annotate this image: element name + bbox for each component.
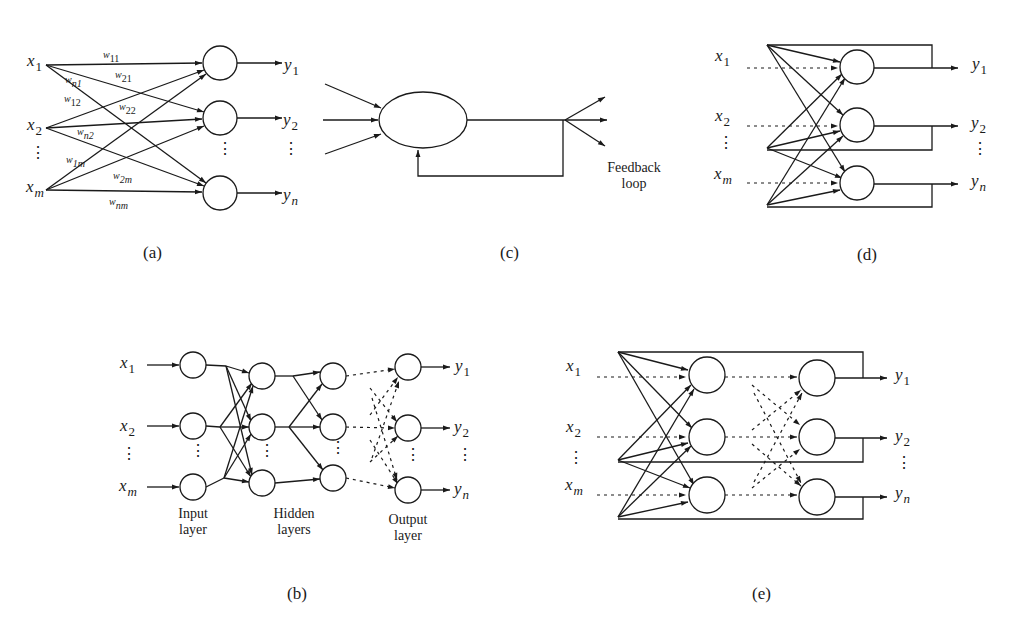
c-neuron xyxy=(379,92,467,148)
b-output-label-2: y2 xyxy=(454,418,469,439)
b-hidden2-node-2 xyxy=(320,414,346,440)
a-weight-1m: w1m xyxy=(66,155,85,169)
a-output-label-n: yn xyxy=(283,186,298,207)
a-output-label-2: y2 xyxy=(283,111,298,132)
panel-b-multilayer-feedforward xyxy=(147,352,450,503)
e-output-label-1: y1 xyxy=(895,366,910,387)
a-weight-n2: wn2 xyxy=(77,127,94,141)
a-weight-2m: w2m xyxy=(113,171,132,185)
e-input-ellipsis: ⋮ xyxy=(568,455,576,461)
caption-b: (b) xyxy=(287,585,307,602)
a-output-label-1: y1 xyxy=(284,56,299,77)
caption-a: (a) xyxy=(143,244,162,261)
a-input-label-1: x1 xyxy=(27,52,42,73)
e-output-node-1 xyxy=(799,360,835,396)
e-layer1-node-1 xyxy=(689,357,725,393)
a-input-ellipsis: ⋮ xyxy=(30,150,38,156)
caption-c: (c) xyxy=(500,244,519,261)
a-weight-12: w12 xyxy=(64,94,81,108)
b-input-label-m: xm xyxy=(119,477,137,498)
d-output-label-1: y1 xyxy=(972,55,987,76)
b-input-label-1: x1 xyxy=(120,354,135,375)
b-output-node-1 xyxy=(395,354,421,380)
e-input-label-1: x1 xyxy=(566,357,581,378)
b-input-node-1 xyxy=(180,352,206,378)
e-input-label-2: x2 xyxy=(566,418,581,439)
b-input-ellipsis: ⋮ xyxy=(121,451,129,457)
b-input-node-2 xyxy=(180,413,206,439)
caption-e: (e) xyxy=(752,585,771,602)
d-node-n xyxy=(840,166,874,200)
b-output-node-n xyxy=(395,477,421,503)
b-output-node-2 xyxy=(395,415,421,441)
network-diagrams xyxy=(0,0,1034,620)
e-output-node-n xyxy=(799,479,835,515)
b-hidden2-node-3 xyxy=(320,465,346,491)
panel-c-feedback-node xyxy=(323,84,607,176)
d-node-1 xyxy=(840,50,874,84)
d-output-label-n: yn xyxy=(971,172,986,193)
b-input-layer-ellipsis: ⋮ xyxy=(190,448,198,454)
a-output-ellipsis: ⋮ xyxy=(283,146,291,152)
d-input-label-2: x2 xyxy=(715,107,730,128)
b-input-label-2: x2 xyxy=(120,417,135,438)
b-hidden-layers-label: Hidden layers xyxy=(262,506,326,538)
d-output-ellipsis: ⋮ xyxy=(972,146,980,152)
b-input-node-m xyxy=(180,474,206,500)
b-output-layer-label: Output layer xyxy=(376,512,440,544)
a-input-label-2: x2 xyxy=(27,116,42,137)
d-node-2 xyxy=(840,108,874,142)
a-weight-22: w22 xyxy=(119,102,136,116)
b-hidden1-ellipsis: ⋮ xyxy=(259,448,267,454)
d-input-ellipsis: ⋮ xyxy=(718,140,726,146)
e-output-label-n: yn xyxy=(895,484,910,505)
b-hidden1-node-1 xyxy=(249,363,275,389)
panel-d-single-layer-recurrent xyxy=(747,45,958,207)
e-layer1-node-3 xyxy=(689,477,725,513)
e-output-node-2 xyxy=(799,419,835,455)
b-output-label-n: yn xyxy=(454,480,469,501)
panel-e-multilayer-recurrent xyxy=(597,352,887,519)
b-input-layer-label: Input layer xyxy=(165,506,221,538)
b-hidden2-node-1 xyxy=(320,363,346,389)
a-weight-nm: wnm xyxy=(109,197,128,211)
e-input-label-m: xm xyxy=(565,476,583,497)
a-output-node-1 xyxy=(203,46,237,80)
d-input-label-m: xm xyxy=(714,165,732,186)
b-output-ellipsis: ⋮ xyxy=(457,452,465,458)
a-node-ellipsis: ⋮ xyxy=(217,146,225,152)
d-input-label-1: x1 xyxy=(715,47,730,68)
b-hidden1-node-2 xyxy=(249,414,275,440)
caption-d: (d) xyxy=(857,246,877,263)
a-weight-21: w21 xyxy=(115,70,132,84)
b-hidden1-node-3 xyxy=(249,470,275,496)
c-feedback-loop-label: Feedback loop xyxy=(602,160,666,192)
e-output-label-2: y2 xyxy=(895,427,910,448)
a-weight-11: w11 xyxy=(103,50,119,64)
e-output-ellipsis: ⋮ xyxy=(896,460,904,466)
e-layer1-node-2 xyxy=(689,419,725,455)
d-output-label-2: y2 xyxy=(971,114,986,135)
a-output-node-n xyxy=(203,176,237,210)
a-weight-n1: wn1 xyxy=(65,75,82,89)
a-output-node-2 xyxy=(203,101,237,135)
b-output-layer-ellipsis: ⋮ xyxy=(405,452,413,458)
b-hidden2-ellipsis: ⋮ xyxy=(330,445,338,451)
b-output-label-1: y1 xyxy=(455,357,470,378)
a-input-label-m: xm xyxy=(26,178,44,199)
